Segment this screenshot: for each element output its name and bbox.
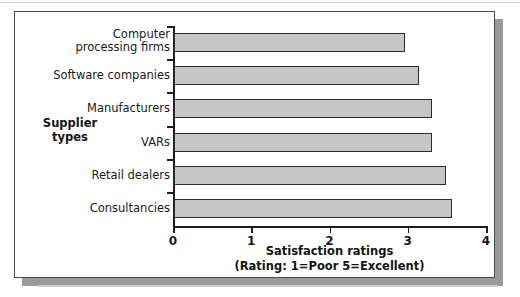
x-axis-title-block: Satisfaction ratings (Rating: 1=Poor 5=E… [173,244,486,274]
bar-software-companies: Software companies [174,66,419,85]
bar-label-vars: VARs [20,136,170,149]
figure-panel: Supplier types Computer processing firms… [14,11,495,278]
y-axis-tick [167,92,173,94]
scan-artifact-bottom-line [38,285,498,287]
x-axis-title: Satisfaction ratings [173,244,486,259]
x-axis-tick-3 [408,226,410,233]
plot-area: Computer processing firms Software compa… [173,26,486,226]
bar-manufacturers: Manufacturers [174,99,432,118]
x-axis-title-note: (Rating: 1=Poor 5=Excellent) [173,259,486,274]
bar-label-retail-dealers: Retail dealers [20,169,170,182]
y-axis-tick [167,192,173,194]
bar-consultancies: Consultancies [174,199,452,218]
x-axis-tick-4 [486,226,488,233]
x-axis-tick-2 [330,226,332,233]
x-axis-tick-1 [251,226,253,233]
bar-retail-dealers: Retail dealers [174,166,446,185]
y-axis-tick [167,126,173,128]
bar-label-software-companies: Software companies [20,69,170,82]
bar-label-computer-processing-firms: Computer processing firms [20,28,170,54]
y-axis-tick [167,159,173,161]
scan-artifact-top-line [0,2,520,3]
bar-computer-processing-firms: Computer processing firms [174,33,405,52]
x-axis-tick-0 [173,226,175,233]
bar-label-manufacturers: Manufacturers [20,102,170,115]
y-axis-tick [167,59,173,61]
bar-vars: VARs [174,133,432,152]
bar-label-consultancies: Consultancies [20,202,170,215]
y-axis-line [173,26,175,226]
